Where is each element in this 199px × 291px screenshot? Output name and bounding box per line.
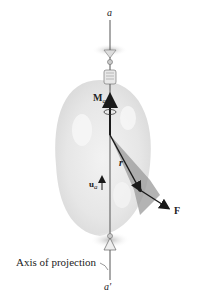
moment-subscript: a — [102, 97, 106, 105]
axis-top-label: a — [107, 8, 112, 18]
position-vector-label: r — [119, 158, 123, 168]
unit-vector-label: ua — [89, 180, 98, 191]
axis-bottom-label: a′ — [104, 282, 111, 291]
moment-label: Ma — [93, 93, 106, 105]
caption-leader — [100, 263, 108, 270]
force-label: F — [174, 206, 180, 216]
diagram-canvas — [0, 0, 199, 291]
unit-vector-subscript: a — [94, 183, 98, 191]
axis-caption: Axis of projection — [16, 257, 96, 268]
